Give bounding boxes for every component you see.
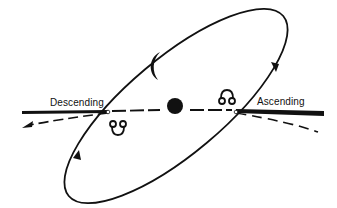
descending-label: Descending (50, 97, 104, 108)
descending-node-icon (110, 121, 126, 135)
moon-crescent-icon (151, 52, 160, 80)
descending-node-point (106, 110, 110, 114)
orbital-plane-line (22, 113, 318, 132)
ascending-node-icon (219, 90, 235, 104)
ascending-label: Ascending (257, 96, 305, 107)
ascending-node-point (234, 110, 238, 114)
earth-icon (167, 98, 183, 114)
arrow-left-icon (22, 121, 33, 128)
